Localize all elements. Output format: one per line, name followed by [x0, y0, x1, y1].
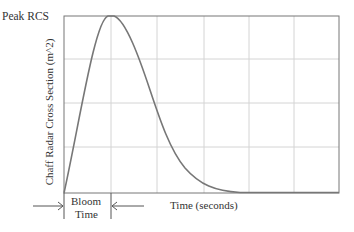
y-axis-label: Chaff Radar Cross Section (m^2): [43, 39, 55, 186]
y-top-label: Peak RCS: [2, 10, 49, 22]
bloom-time-label: Time: [75, 208, 98, 220]
plot-frame: [64, 16, 339, 193]
x-axis-label: Time (seconds): [170, 199, 238, 211]
grid: [64, 16, 339, 193]
bloom-label: Bloom: [71, 195, 101, 207]
rcs-curve: [64, 16, 339, 193]
